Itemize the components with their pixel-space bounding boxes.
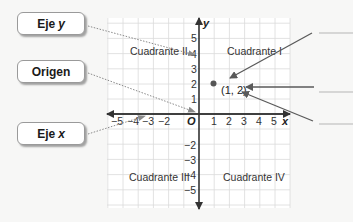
y-tick: 3 [191,63,197,75]
x-tick: 5 [271,115,277,127]
y-tick: 2 [191,78,197,90]
x-axis-label: x [281,115,289,127]
y-tick: −5 [184,184,196,196]
y-tick: 1 [191,93,197,105]
y-tick: 5 [191,32,197,44]
y-tick: −2 [184,139,196,151]
y-axis-label: y [202,17,210,29]
point-marker [211,81,217,87]
y-tick: −3 [184,154,196,166]
x-tick: 4 [256,115,262,127]
x-tick: −2 [158,115,170,127]
y-tick: 4 [191,48,197,60]
x-tick: 1 [211,115,217,127]
quadrant-iii-label: Cuadrante III [129,171,190,183]
quadrant-iv-label: Cuadrante IV [223,171,285,183]
origin-label: O [187,115,196,127]
coordinate-plane: y x O 1 2 3 4 5 −5 −4 −3 −2 1 2 3 4 5 −2… [0,0,353,222]
quadrant-i-label: Cuadrante I [227,45,282,57]
x-tick: 2 [226,115,232,127]
point-label: (1, 2) [221,84,247,96]
x-tick: 3 [241,115,247,127]
